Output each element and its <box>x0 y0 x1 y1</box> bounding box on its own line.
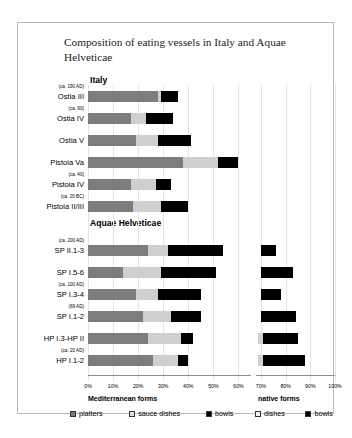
section-header-italy: Italy <box>90 75 107 85</box>
bar-segment-platters <box>88 179 131 190</box>
x-tick-label: 20% <box>133 383 143 389</box>
gridline <box>213 85 214 381</box>
bar-segment-bowls <box>218 157 238 168</box>
bar-segment-platters <box>88 355 153 366</box>
bar-mediterranean <box>88 179 171 190</box>
bar-segment-sauce-dishes <box>123 267 161 278</box>
x-tick-label: 60% <box>233 383 243 389</box>
legend-swatch <box>255 411 261 417</box>
bar-segment-native-bowls <box>261 289 281 300</box>
bar-segment-sauce-dishes <box>153 355 178 366</box>
x-tick-label: 40% <box>183 383 193 389</box>
bar-segment-platters <box>88 333 148 344</box>
legend-item-native-bowls: bowls <box>305 409 332 418</box>
bar-segment-platters <box>88 91 158 102</box>
gridline <box>335 85 336 381</box>
bar-segment-native-bowls <box>261 267 293 278</box>
bar-mediterranean <box>88 113 173 124</box>
bar-segment-bowls <box>146 113 174 124</box>
legend-item-platters: platters <box>70 409 103 418</box>
x-tick-label: 50% <box>208 383 218 389</box>
bar-mediterranean <box>88 267 216 278</box>
bar-segment-sauce-dishes <box>136 135 159 146</box>
bar-segment-platters <box>88 113 131 124</box>
bar-segment-native-bowls <box>263 333 298 344</box>
legend-label: bowls <box>314 409 332 418</box>
bar-segment-bowls <box>158 289 201 300</box>
legend-label: sauce dishes <box>138 409 180 418</box>
bar-segment-bowls <box>168 245 223 256</box>
legend-swatch <box>129 411 135 417</box>
chart-legend: platterssauce dishesbowlsdishesbowls <box>70 409 350 423</box>
group-label-native: native forms <box>258 395 300 402</box>
bar-segment-bowls <box>161 267 216 278</box>
bar-segment-sauce-dishes <box>131 179 156 190</box>
bar-segment-bowls <box>178 355 188 366</box>
bar-mediterranean <box>88 245 223 256</box>
bar-segment-platters <box>88 311 143 322</box>
bar-segment-sauce-dishes <box>136 289 159 300</box>
bar-mediterranean <box>88 135 191 146</box>
bar-segment-platters <box>88 245 148 256</box>
bar-segment-platters <box>88 289 136 300</box>
bar-mediterranean <box>88 201 188 212</box>
axis-line <box>88 375 251 376</box>
mediterranean-panel <box>88 85 251 381</box>
chart-frame: Composition of eating vessels in Italy a… <box>17 22 334 414</box>
bar-mediterranean <box>88 311 201 322</box>
bar-segment-native-bowls <box>261 311 296 322</box>
legend-label: bowls <box>215 409 233 418</box>
bar-segment-sauce-dishes <box>148 333 181 344</box>
bar-segment-native-bowls <box>263 355 305 366</box>
x-tick-label: 10% <box>108 383 118 389</box>
bar-native <box>258 333 298 344</box>
bar-segment-platters <box>88 157 183 168</box>
bar-mediterranean <box>88 289 201 300</box>
legend-swatch <box>70 411 76 417</box>
legend-item-native-dishes: dishes <box>255 409 285 418</box>
legend-label: dishes <box>264 409 285 418</box>
bar-segment-native-bowls <box>261 245 276 256</box>
bar-segment-sauce-dishes <box>131 113 146 124</box>
legend-item-sauce-dishes: sauce dishes <box>129 409 180 418</box>
bar-segment-bowls <box>181 333 194 344</box>
bar-segment-platters <box>88 135 136 146</box>
bar-segment-sauce-dishes <box>133 201 161 212</box>
bar-segment-sauce-dishes <box>148 245 168 256</box>
bar-segment-platters <box>88 201 133 212</box>
bar-mediterranean <box>88 157 238 168</box>
bar-segment-bowls <box>156 179 171 190</box>
x-tick-label: 90% <box>305 383 315 389</box>
legend-swatch <box>206 411 212 417</box>
native-panel <box>256 85 335 381</box>
bar-segment-sauce-dishes <box>143 311 171 322</box>
bar-mediterranean <box>88 333 193 344</box>
legend-label: platters <box>79 409 103 418</box>
bar-native <box>258 355 305 366</box>
gridline <box>310 85 311 381</box>
bar-segment-bowls <box>158 135 191 146</box>
x-tick-label: 0% <box>84 383 92 389</box>
axis-line <box>256 375 335 376</box>
bar-mediterranean <box>88 91 178 102</box>
x-tick-label: 70% <box>256 383 266 389</box>
bar-segment-bowls <box>171 311 201 322</box>
bar-native <box>261 267 293 278</box>
legend-swatch <box>305 411 311 417</box>
bar-mediterranean <box>88 355 188 366</box>
chart-title: Composition of eating vessels in Italy a… <box>64 35 322 64</box>
x-tick-label: 100% <box>328 383 341 389</box>
gridline <box>238 85 239 381</box>
bar-native <box>261 311 296 322</box>
bar-segment-bowls <box>161 91 179 102</box>
bar-segment-sauce-dishes <box>183 157 218 168</box>
x-tick-label: 80% <box>280 383 290 389</box>
x-tick-label: 30% <box>158 383 168 389</box>
bar-segment-platters <box>88 267 123 278</box>
legend-item-bowls: bowls <box>206 409 233 418</box>
x-axis-ticks: 0%10%20%30%40%50%60%70%80%90%100% <box>70 381 335 393</box>
bar-native <box>261 289 281 300</box>
bar-segment-bowls <box>161 201 189 212</box>
bar-native <box>261 245 276 256</box>
plot-area <box>70 85 335 381</box>
